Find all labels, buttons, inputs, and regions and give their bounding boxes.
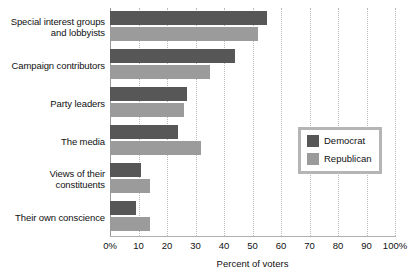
category-label-line: constituents — [0, 179, 105, 190]
bar-group — [110, 84, 395, 122]
gridline — [395, 8, 397, 236]
bar-republican — [110, 65, 210, 79]
legend-label-democrat: Democrat — [324, 135, 365, 147]
x-tick-label: 90 — [361, 240, 372, 252]
category-label: Their own conscience — [0, 212, 105, 223]
x-tick-label: 0% — [103, 240, 117, 252]
x-axis-line — [110, 236, 396, 237]
x-axis-title: Percent of voters — [110, 258, 395, 269]
bar-republican — [110, 217, 150, 231]
bar-groups — [110, 8, 395, 236]
category-label-line: Views of their — [0, 168, 105, 179]
bar-republican — [110, 179, 150, 193]
x-tick-label: 100% — [383, 240, 407, 252]
x-tick-label: 80 — [333, 240, 344, 252]
bar-republican — [110, 141, 201, 155]
bar-democrat — [110, 87, 187, 101]
bar-group — [110, 198, 395, 236]
category-label: Views of theirconstituents — [0, 168, 105, 190]
x-tick-label: 10 — [133, 240, 144, 252]
category-label-line: Party leaders — [0, 98, 105, 109]
category-label-line: Their own conscience — [0, 212, 105, 223]
bar-republican — [110, 27, 258, 41]
category-label: Campaign contributors — [0, 60, 105, 71]
bar-group — [110, 46, 395, 84]
bar-democrat — [110, 125, 178, 139]
category-label: Special interest groupsand lobbyists — [0, 16, 105, 38]
category-axis-labels: Special interest groupsand lobbyistsCamp… — [0, 8, 105, 236]
x-tick-label: 20 — [162, 240, 173, 252]
x-tick-label: 40 — [219, 240, 230, 252]
category-label-line: Special interest groups — [0, 16, 105, 27]
category-label: The media — [0, 136, 105, 147]
category-label-line: The media — [0, 136, 105, 147]
bar-democrat — [110, 201, 136, 215]
category-label-line: and lobbyists — [0, 27, 105, 38]
category-label-line: Campaign contributors — [0, 60, 105, 71]
x-tick-label: 50 — [247, 240, 258, 252]
category-label: Party leaders — [0, 98, 105, 109]
bar-democrat — [110, 163, 141, 177]
x-tick-label: 30 — [190, 240, 201, 252]
bar-democrat — [110, 11, 267, 25]
bar-chart: Special interest groupsand lobbyistsCamp… — [0, 0, 412, 278]
x-tick-label: 70 — [304, 240, 315, 252]
bar-group — [110, 8, 395, 46]
bar-democrat — [110, 49, 235, 63]
legend: Democrat Republican — [298, 127, 382, 174]
legend-swatch-democrat — [307, 135, 319, 147]
x-tick-label: 60 — [276, 240, 287, 252]
legend-label-republican: Republican — [324, 153, 372, 165]
plot-area — [110, 8, 395, 236]
legend-swatch-republican — [307, 153, 319, 165]
x-axis-tick-labels: 0%102030405060708090100% — [110, 240, 395, 254]
bar-republican — [110, 103, 184, 117]
